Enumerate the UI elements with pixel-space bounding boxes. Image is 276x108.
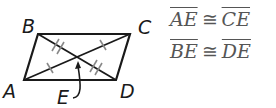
arrowhead-icon <box>75 61 81 69</box>
congruence-statement-1: AE≅CE <box>170 8 250 30</box>
parallelogram-diagram: B C A D E <box>0 0 160 108</box>
vertex-label-c: C <box>138 16 152 38</box>
congruent-symbol: ≅ <box>202 40 218 62</box>
diagonal-ac <box>24 34 130 80</box>
pointer-arrow-icon <box>73 66 80 98</box>
vertex-label-b: B <box>22 15 35 37</box>
segment-ce: CE <box>222 8 250 30</box>
vertex-label-d: D <box>120 80 135 102</box>
vertex-label-a: A <box>1 80 16 102</box>
segment-ae: AE <box>170 8 198 30</box>
point-label-e: E <box>57 86 69 108</box>
segment-de: DE <box>222 40 251 62</box>
congruence-statement-2: BE≅DE <box>170 40 251 62</box>
segment-be: BE <box>170 40 198 62</box>
congruent-symbol: ≅ <box>202 8 218 30</box>
